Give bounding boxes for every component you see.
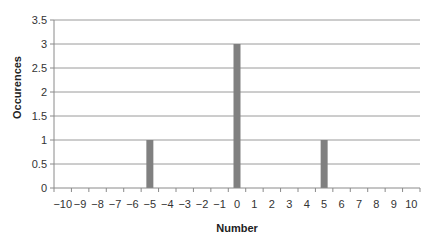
x-tick-label: 2 [269, 198, 275, 210]
y-tick-label: 3.5 [32, 14, 47, 26]
bar [146, 140, 153, 188]
y-tick-label: 1 [41, 134, 47, 146]
x-tick-label: −7 [109, 198, 122, 210]
x-tick-label: 9 [391, 198, 397, 210]
y-tick-label: 3 [41, 38, 47, 50]
y-tick-label: 1.5 [32, 110, 47, 122]
x-tick-label: −9 [74, 198, 87, 210]
x-tick-label: 7 [356, 198, 362, 210]
x-tick-label: −5 [144, 198, 157, 210]
y-tick-label: 2.5 [32, 62, 47, 74]
x-tick-label: 5 [321, 198, 327, 210]
x-tick-label: 6 [339, 198, 345, 210]
bar [321, 140, 328, 188]
bar [234, 44, 241, 188]
chart-plot: 00.511.522.533.5−10−9−8−7−6−5−4−3−2−1012… [0, 0, 435, 245]
y-tick-label: 2 [41, 86, 47, 98]
x-tick-label: 0 [234, 198, 240, 210]
y-axis-label: Occurences [11, 89, 23, 119]
y-tick-label: 0 [41, 182, 47, 194]
x-tick-label: 10 [405, 198, 417, 210]
x-tick-label: −10 [53, 198, 72, 210]
x-tick-label: −1 [213, 198, 226, 210]
x-tick-label: 4 [304, 198, 310, 210]
x-tick-label: 8 [373, 198, 379, 210]
x-tick-label: 1 [251, 198, 257, 210]
x-tick-label: −4 [161, 198, 174, 210]
x-tick-label: −3 [178, 198, 191, 210]
x-tick-label: −2 [196, 198, 209, 210]
x-tick-label: −6 [126, 198, 139, 210]
y-tick-label: 0.5 [32, 158, 47, 170]
x-tick-label: 3 [286, 198, 292, 210]
x-axis-label: Number [216, 222, 258, 234]
x-tick-label: −8 [91, 198, 104, 210]
